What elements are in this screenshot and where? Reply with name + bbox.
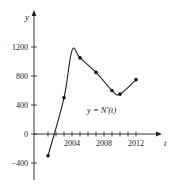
y-axis <box>32 10 37 180</box>
y-tick-label: 0 <box>24 130 28 139</box>
curve-label: y = N'(t) <box>86 105 116 115</box>
x-tick-label: 2008 <box>96 139 112 148</box>
y-tick-label: 1200 <box>12 43 28 52</box>
y-tick-label: −400 <box>11 159 28 168</box>
y-ticks: −40004008001200 <box>11 43 37 168</box>
y-axis-label: y <box>24 12 29 22</box>
x-axis <box>34 132 162 137</box>
chart: −40004008001200 200420082012 y t y = N'(… <box>0 0 170 185</box>
data-point <box>118 92 122 96</box>
curve-n-prime <box>48 48 136 156</box>
x-tick-label: 2004 <box>64 139 80 148</box>
data-point <box>110 89 114 93</box>
data-point <box>78 56 82 60</box>
data-point <box>46 154 50 158</box>
data-point <box>62 96 66 100</box>
data-point <box>94 71 98 75</box>
data-point <box>134 78 138 82</box>
y-tick-label: 400 <box>16 101 28 110</box>
x-tick-label: 2012 <box>128 139 144 148</box>
y-tick-label: 800 <box>16 72 28 81</box>
y-axis-arrow-icon <box>32 10 37 16</box>
x-axis-label: t <box>164 138 167 148</box>
x-axis-arrow-icon <box>156 132 162 137</box>
